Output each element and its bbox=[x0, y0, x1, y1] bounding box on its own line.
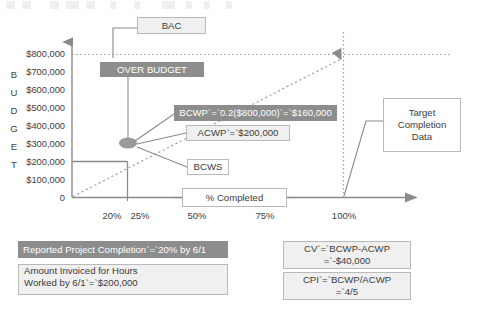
note-amount-invoiced-line-1: Amount Invoiced for Hours bbox=[24, 265, 138, 277]
acwp-actual-line bbox=[73, 162, 128, 198]
callout-bcws[interactable]: BCWS bbox=[187, 159, 229, 175]
target-completion-leader-line bbox=[344, 121, 383, 196]
chart-canvas: B U D G E T $800,000 $700,000 $600,000 $… bbox=[0, 0, 482, 314]
bcws-leader-line bbox=[137, 147, 187, 167]
y-tick-200000: $200,000 bbox=[3, 158, 65, 167]
formula-cv-line-1: CV`=`BCWP-ACWP bbox=[304, 243, 390, 255]
y-tick-600000: $600,000 bbox=[3, 86, 65, 95]
y-tick-400000: $400,000 bbox=[3, 122, 65, 131]
x-tick-20: 20% bbox=[97, 211, 127, 221]
callout-bcwp[interactable]: BCWP`=`0.2($800,000)`=`$160,000 bbox=[174, 105, 337, 121]
x-tick-75: 75% bbox=[250, 211, 280, 221]
y-tick-500000: $500,000 bbox=[3, 104, 65, 113]
y-tick-0: 0 bbox=[3, 194, 65, 203]
target-completion-line-3: Data bbox=[412, 131, 432, 143]
note-amount-invoiced[interactable]: Amount Invoiced for Hours Worked by 6/1`… bbox=[18, 264, 228, 295]
formula-cpi[interactable]: CPI`=`BCWP/ACWP =`4/5 bbox=[283, 272, 411, 300]
note-reported-completion[interactable]: Reported Project Completion`=`20% by 6/1 bbox=[18, 241, 228, 258]
formula-cpi-line-1: CPI`=`BCWP/ACWP bbox=[303, 274, 391, 286]
x-tick-100: 100% bbox=[327, 211, 361, 221]
callout-over-budget[interactable]: OVER BUDGET bbox=[100, 62, 204, 77]
x-tick-25: 25% bbox=[125, 211, 155, 221]
y-tick-700000: $700,000 bbox=[3, 68, 65, 77]
y-tick-100000: $100,000 bbox=[3, 176, 65, 185]
target-completion-line-2: Completion bbox=[398, 119, 447, 131]
formula-cv-line-2: =`-$40,000 bbox=[324, 255, 371, 267]
note-amount-invoiced-line-2: Worked by 6/1`=`$200,000 bbox=[24, 277, 138, 289]
formula-cv[interactable]: CV`=`BCWP-ACWP =`-$40,000 bbox=[283, 241, 411, 269]
target-completion-line-1: Target bbox=[409, 107, 436, 119]
formula-cpi-line-2: =`4/5 bbox=[336, 286, 358, 298]
callout-acwp[interactable]: ACWP`=`$200,000 bbox=[186, 125, 290, 141]
callout-bac[interactable]: BAC bbox=[137, 17, 206, 34]
x-tick-50: 50% bbox=[182, 211, 212, 221]
callout-x-axis-label[interactable]: % Completed bbox=[182, 188, 287, 207]
y-tick-300000: $300,000 bbox=[3, 140, 65, 149]
bac-leader-line bbox=[113, 28, 137, 58]
status-point-marker bbox=[119, 137, 137, 148]
y-tick-800000: $800,000 bbox=[3, 50, 65, 59]
callout-target-completion-data[interactable]: Target Completion Data bbox=[383, 98, 461, 152]
